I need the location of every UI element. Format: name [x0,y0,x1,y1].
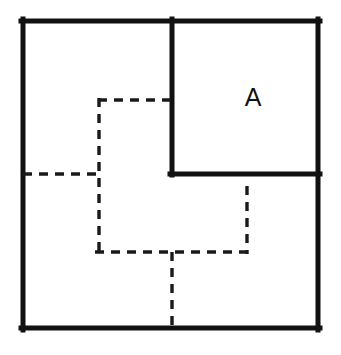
solid-lines-group [21,19,320,330]
geometry-figure: A [0,0,341,355]
figure-canvas: A [0,0,341,355]
figure-labels-group: A [245,83,262,111]
dashed-lines-group [23,98,249,329]
label-region-a: A [245,83,262,111]
